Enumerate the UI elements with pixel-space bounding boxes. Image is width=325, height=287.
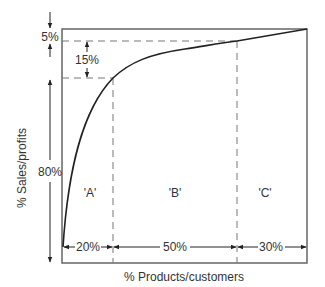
label-15pct: 15% xyxy=(75,53,99,67)
label-50pct: 50% xyxy=(163,240,187,254)
label-30pct: 30% xyxy=(259,240,283,254)
x-axis-label: % Products/customers xyxy=(124,270,244,284)
label-80pct: 80% xyxy=(38,165,62,179)
region-a-label: 'A' xyxy=(84,186,97,200)
pareto-diagram: 5% 15% 80% % Sales/profits 'A' 'B' 'C' 2… xyxy=(0,0,325,287)
label-20pct: 20% xyxy=(76,240,100,254)
y-axis-label: % Sales/profits xyxy=(15,128,29,208)
pareto-curve xyxy=(63,29,307,247)
region-b-label: 'B' xyxy=(169,186,182,200)
label-5pct: 5% xyxy=(41,30,59,44)
region-c-label: 'C' xyxy=(258,186,271,200)
